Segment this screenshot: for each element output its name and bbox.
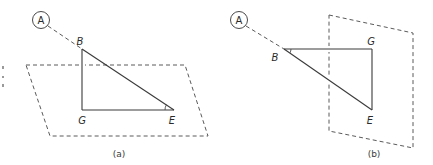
segment-be-a [82,49,174,110]
panel-b: A B G E (b) [231,12,414,160]
figure-canvas: A B G E (a) A B G E [0,0,433,165]
vertex-g-label-a: G [78,115,86,126]
plane-b [329,15,413,148]
vertex-e-label-b: E [367,115,374,126]
vertex-g-label-b: G [367,36,375,47]
vertex-b-label-b: B [272,52,279,63]
edge-artifact-marks [2,66,4,87]
panel-a: A B G E (a) [26,12,208,160]
point-a-label-b: A [236,15,243,26]
plane-a [26,65,208,136]
angle-mark-b-b [290,49,291,53]
sight-line-b [246,26,284,49]
point-a-label-a: A [38,15,45,26]
vertex-e-label-a: E [169,115,176,126]
caption-b: (b) [368,149,381,159]
caption-a: (a) [113,149,126,159]
vertex-b-label-a: B [77,36,84,47]
segment-be-b [284,49,372,110]
angle-mark-e-a [165,105,167,110]
